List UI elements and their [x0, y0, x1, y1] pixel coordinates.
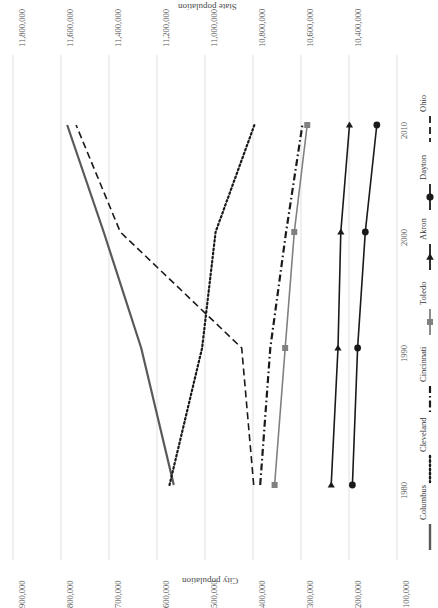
legend-label-cleveland[interactable]: Cleveland [418, 418, 428, 452]
legend-marker-dayton [426, 193, 433, 200]
series-line-columbus [67, 125, 174, 485]
tick-label-city-population: 300,000 [305, 580, 315, 608]
legend-label-akron[interactable]: Akron [418, 218, 428, 240]
legend-label-toledo[interactable]: Toledo [418, 282, 428, 305]
data-point-akron [346, 121, 353, 127]
series-line-ohio [76, 125, 254, 485]
tick-label-state-population: 10,400,000 [353, 9, 363, 47]
series-line-cincinnati [260, 125, 302, 485]
data-point-akron [337, 228, 344, 234]
legend-marker-akron [426, 253, 434, 260]
legend-label-cincinnati[interactable]: Cincinnati [418, 347, 428, 382]
tick-label-year: 1980 [399, 482, 409, 499]
tick-label-city-population: 800,000 [65, 580, 75, 608]
tick-label-state-population: 11,200,000 [161, 9, 171, 47]
data-point-akron [328, 481, 335, 487]
legend-label-dayton[interactable]: Dayton [418, 155, 428, 180]
data-point-dayton [362, 229, 369, 236]
data-point-akron [334, 344, 341, 350]
tick-label-state-population: 10,800,000 [257, 9, 267, 47]
tick-label-state-population: 11,800,000 [17, 9, 27, 47]
tick-label-city-population: 200,000 [353, 580, 363, 608]
axis-title-state-population: State population [178, 2, 237, 12]
tick-label-state-population: 10,600,000 [305, 9, 315, 47]
data-point-toledo [282, 345, 288, 351]
series-line-dayton [352, 125, 376, 485]
legend-label-columbus[interactable]: Columbus [418, 485, 428, 520]
data-point-toledo [291, 229, 297, 235]
tick-label-city-population: 100,000 [401, 580, 411, 608]
tick-label-city-population: 900,000 [17, 580, 27, 608]
data-point-dayton [354, 345, 361, 352]
legend-label-ohio[interactable]: Ohio [418, 95, 428, 112]
data-point-toledo [304, 122, 310, 128]
tick-label-year: 2000 [399, 229, 409, 246]
axis-title-city-population: City population [182, 576, 238, 586]
data-point-dayton [373, 122, 380, 129]
series-line-cleveland [170, 125, 255, 485]
series-line-akron [331, 125, 349, 485]
tick-label-year: 1990 [399, 345, 409, 362]
tick-label-year: 2010 [399, 122, 409, 139]
series-line-toledo [275, 125, 308, 485]
data-point-dayton [349, 482, 356, 489]
tick-label-state-population: 11,600,000 [65, 9, 75, 47]
tick-label-city-population: 400,000 [257, 580, 267, 608]
legend-marker-toledo [427, 319, 433, 325]
data-point-toledo [272, 482, 278, 488]
tick-label-state-population: 11,000,000 [209, 9, 219, 47]
tick-label-city-population: 700,000 [113, 580, 123, 608]
tick-label-city-population: 600,000 [161, 580, 171, 608]
tick-label-state-population: 11,400,000 [113, 9, 123, 47]
